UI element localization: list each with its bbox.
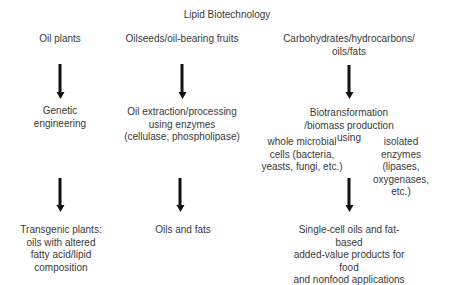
arrow-down-icon (181, 64, 184, 93)
result-single-cell-oils: Single-cell oils and fat-based added-val… (290, 224, 408, 285)
arrow-down-icon (59, 64, 62, 93)
diagram-title: Lipid Biotechnology (184, 9, 271, 22)
source-oil-plants: Oil plants (39, 33, 81, 46)
arrow-down-icon (179, 178, 182, 206)
source-carbohydrates: Carbohydrates/hydrocarbons/ oils/fats (283, 33, 415, 58)
arrow-down-icon (59, 178, 62, 206)
arrow-down-icon (348, 178, 351, 206)
process-genetic-engineering: Genetic engineering (34, 105, 86, 130)
source-oilseeds: Oilseeds/oil-bearing fruits (126, 33, 239, 46)
option-whole-microbial-cells: whole microbial cells (bacteria, yeasts,… (261, 136, 342, 174)
option-isolated-enzymes: isolated enzymes (lipases, oxygenases, e… (368, 136, 434, 199)
process-oil-extraction: Oil extraction/processing using enzymes … (124, 106, 240, 144)
result-oils-and-fats: Oils and fats (155, 224, 211, 237)
result-transgenic-plants: Transgenic plants: oils with altered fat… (20, 224, 101, 274)
arrow-down-icon (348, 65, 351, 93)
